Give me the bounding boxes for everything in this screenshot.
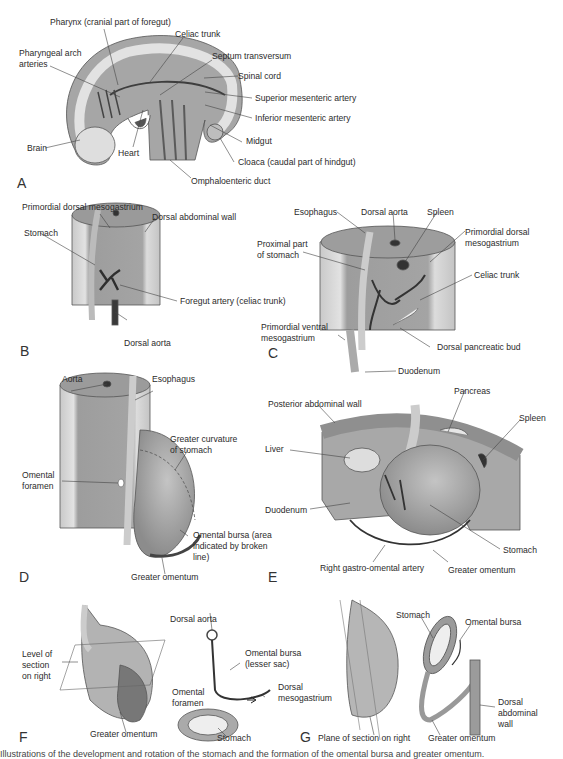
label-inferior-mesenteric: Inferior mesenteric artery: [255, 113, 351, 124]
label-on-right: on right: [22, 671, 51, 682]
label-stomach-b: Stomach: [24, 228, 58, 239]
panel-letter-f: F: [19, 729, 28, 745]
panel-c-illustration: [320, 226, 455, 372]
label-omental-bursa-f1: Omental bursa: [245, 648, 301, 659]
label-dorsal-wall-3: wall: [498, 719, 513, 730]
label-celiac-trunk-a: Celiac trunk: [175, 29, 220, 40]
label-primordial-dorsal-c1: Primordial dorsal: [465, 227, 529, 238]
label-esophagus-c: Esophagus: [294, 207, 337, 218]
label-omental-foramen-f2: foramen: [172, 698, 204, 709]
panel-g-illustration: [340, 600, 480, 740]
label-heart: Heart: [118, 148, 139, 159]
label-dorsal-mesogastrium-2: mesogastrium: [278, 693, 332, 704]
label-foregut-artery: Foregut artery (celiac trunk): [180, 296, 286, 307]
panel-f-illustration: [60, 605, 270, 741]
panel-letter-e: E: [268, 569, 277, 585]
label-esophagus-d: Esophagus: [152, 374, 195, 385]
label-pancreas: Pancreas: [454, 386, 490, 397]
label-proximal-part: Proximal part: [257, 239, 308, 250]
label-omental-foramen-d2: foramen: [22, 481, 54, 492]
label-cloaca: Cloaca (caudal part of hindgut): [238, 157, 356, 168]
label-liver: Liver: [265, 444, 284, 455]
label-omental-bursa-d3: line): [193, 552, 209, 563]
panel-d-illustration: [60, 373, 200, 557]
label-stomach-e: Stomach: [503, 545, 537, 556]
panel-letter-c: C: [268, 345, 278, 361]
label-pharynx: Pharynx (cranial part of foregut): [50, 17, 171, 28]
label-dorsal-pancreatic-bud: Dorsal pancreatic bud: [437, 342, 521, 353]
label-spleen-c: Spleen: [427, 207, 454, 218]
label-dorsal-wall-1: Dorsal: [498, 697, 523, 708]
label-dorsal-abdominal-wall: Dorsal abdominal wall: [152, 212, 236, 223]
label-posterior-abdominal-wall: Posterior abdominal wall: [268, 399, 362, 410]
label-septum-transversum: Septum transversum: [212, 51, 291, 62]
label-omental-bursa-d1: Omental bursa (area: [193, 530, 272, 541]
panel-e-illustration: [322, 405, 520, 544]
label-primordial-dorsal-c2: mesogastrium: [465, 238, 519, 249]
label-dorsal-mesogastrium-1: Dorsal: [278, 682, 303, 693]
label-plane-of-section: Plane of section on right: [318, 733, 410, 744]
label-pharyngeal-arch: Pharyngeal arch: [19, 48, 82, 59]
label-omental-bursa-g: Omental bursa: [465, 617, 521, 628]
label-level-of: Level of: [22, 649, 52, 660]
label-right-gastro-omental: Right gastro-omental artery: [320, 563, 424, 574]
label-of-stomach: of stomach: [257, 250, 299, 261]
panel-letter-d: D: [19, 569, 29, 585]
label-greater-curvature-2: of stomach: [170, 445, 212, 456]
label-greater-omentum-g: Greater omentum: [428, 733, 495, 744]
panel-letter-a: A: [17, 175, 26, 191]
label-primordial-ventral-2: mesogastrium: [261, 333, 315, 344]
label-dorsal-wall-2: abdominal: [498, 708, 538, 719]
label-omental-foramen-d1: Omental: [22, 470, 54, 481]
label-omental-bursa-d2: indicated by broken: [193, 541, 268, 552]
label-greater-curvature-1: Greater curvature: [170, 434, 237, 445]
label-primordial-ventral-1: Primordial ventral: [261, 322, 328, 333]
panel-b-illustration: [72, 203, 160, 325]
label-brain: Brain: [27, 143, 47, 154]
label-spinal-cord: Spinal cord: [238, 71, 281, 82]
label-spleen-e: Spleen: [519, 413, 546, 424]
label-midgut: Midgut: [246, 136, 272, 147]
label-pharyngeal-arteries: arteries: [19, 59, 48, 70]
label-aorta-d: Aorta: [62, 374, 83, 385]
panel-letter-b: B: [20, 343, 29, 359]
label-dorsal-aorta-f: Dorsal aorta: [170, 614, 217, 625]
label-superior-mesenteric: Superior mesenteric artery: [255, 93, 356, 104]
label-omental-foramen-f1: Omental: [172, 687, 204, 698]
label-greater-omentum-e: Greater omentum: [448, 565, 515, 576]
label-stomach-f: Stomach: [217, 733, 251, 744]
label-stomach-g: Stomach: [396, 610, 430, 621]
label-primordial-dorsal-mesogastrium-b: Primordial dorsal mesogastrium: [22, 202, 143, 213]
label-duodenum-c: Duodenum: [398, 366, 440, 377]
label-celiac-trunk-c: Celiac trunk: [474, 270, 519, 281]
label-greater-omentum-d: Greater omentum: [131, 572, 198, 583]
figure-caption: Illustrations of the development and rot…: [0, 749, 484, 759]
label-greater-omentum-f: Greater omentum: [90, 729, 157, 740]
label-duodenum-e: Duodenum: [265, 505, 307, 516]
label-dorsal-aorta-c: Dorsal aorta: [361, 207, 408, 218]
label-section: section: [22, 660, 49, 671]
panel-letter-g: G: [300, 729, 311, 745]
label-dorsal-aorta-b: Dorsal aorta: [124, 338, 171, 349]
label-omphaloenteric: Omphaloenteric duct: [191, 176, 270, 187]
label-omental-bursa-f2: (lesser sac): [245, 659, 289, 670]
